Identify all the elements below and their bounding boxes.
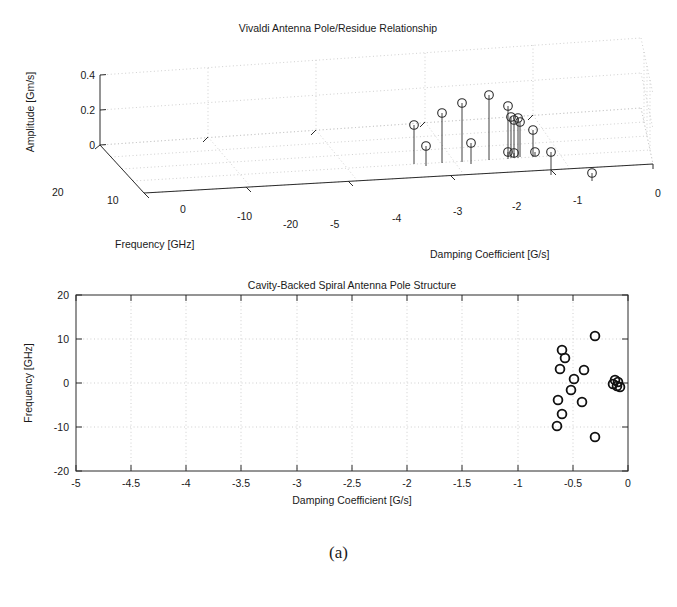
xtick-neg25-2d: -2.5 [343, 477, 361, 489]
axis-label-damping-2d: Damping Coefficient [G/s] [292, 494, 412, 506]
cavity-spiral-pole-plot: Cavity-Backed Spiral Antenna Pole Struct… [0, 268, 677, 518]
scatter-series [553, 332, 625, 442]
xtick-neg2: -2 [512, 200, 521, 212]
ytick-20-2d: 20 [57, 289, 69, 301]
ztick-0-4: 0.4 [80, 69, 95, 81]
plot-title-cavity: Cavity-Backed Spiral Antenna Pole Struct… [248, 279, 457, 291]
xtick-neg3-2d: -3 [292, 477, 301, 489]
scatter-point [570, 375, 579, 384]
damping-axis-3d: -5 -4 -3 -2 -1 0 [144, 164, 661, 230]
stem-item [467, 139, 476, 164]
xtick-neg4: -4 [392, 212, 401, 224]
xtick-neg45-2d: -4.5 [122, 477, 140, 489]
stem-item [547, 148, 556, 175]
xtick-neg35-2d: -3.5 [232, 477, 250, 489]
stem-item [588, 169, 597, 181]
scatter-point [553, 422, 562, 431]
ytick-neg20: -20 [283, 218, 298, 230]
plot-title-vivaldi: Vivaldi Antenna Pole/Residue Relationshi… [239, 22, 437, 34]
left-wall-grid [100, 38, 641, 145]
ytick-neg20-2d: -20 [54, 465, 69, 477]
scatter-point [591, 433, 600, 442]
xtick-neg05-2d: -0.5 [564, 477, 582, 489]
xtick-0-2d: 0 [625, 477, 631, 489]
vivaldi-3d-stem-plot: Vivaldi Antenna Pole/Residue Relationshi… [0, 0, 677, 270]
frequency-axis-3d: 20 10 0 -10 -20 [52, 115, 653, 230]
stem-item [529, 126, 538, 157]
axis-label-damping-3d: Damping Coefficient [G/s] [430, 248, 550, 260]
stem-item [458, 99, 467, 162]
scatter-point [554, 396, 563, 405]
plot-grid [76, 295, 628, 471]
xtick-0: 0 [655, 187, 661, 199]
xtick-neg3: -3 [453, 205, 462, 217]
axis-label-amplitude-3d: Amplitude [Gm/s] [24, 72, 36, 153]
ytick-neg10: -10 [237, 210, 252, 222]
amplitude-axis: 0.4 0.2 0 [80, 69, 106, 151]
scatter-point [580, 366, 589, 375]
ztick-0-2: 0.2 [80, 104, 95, 116]
stem-item [531, 148, 540, 157]
scatter-point [558, 410, 567, 419]
axis-label-frequency-3d: Frequency [GHz] [115, 238, 194, 250]
right-wall-grid [641, 38, 653, 164]
stem-item [410, 121, 419, 164]
ytick-20: 20 [52, 186, 64, 198]
scatter-point [556, 365, 565, 374]
ytick-10-2d: 10 [57, 333, 69, 345]
scatter-point [578, 398, 587, 407]
ytick-10: 10 [107, 194, 119, 206]
scatter-point [561, 354, 570, 363]
scatter-point [567, 386, 576, 395]
xtick-neg4-2d: -4 [181, 477, 190, 489]
xtick-neg1-2d: -1 [513, 477, 522, 489]
figure-caption: (a) [0, 543, 677, 563]
xtick-neg5: -5 [330, 218, 339, 230]
ytick-0: 0 [180, 203, 186, 215]
stem-item [422, 142, 431, 166]
ytick-0-2d: 0 [63, 377, 69, 389]
ytick-neg10-2d: -10 [54, 421, 69, 433]
axis-label-frequency-2d: Frequency [GHz] [22, 343, 34, 422]
figure-container: Vivaldi Antenna Pole/Residue Relationshi… [0, 0, 677, 607]
xtick-neg2-2d: -2 [402, 477, 411, 489]
xtick-neg5-2d: -5 [71, 477, 80, 489]
xtick-neg15-2d: -1.5 [453, 477, 471, 489]
stem-series [410, 91, 597, 181]
xtick-neg1: -1 [573, 194, 582, 206]
stem-item [438, 109, 447, 163]
ztick-0: 0 [89, 139, 95, 151]
stem-item [485, 91, 494, 160]
